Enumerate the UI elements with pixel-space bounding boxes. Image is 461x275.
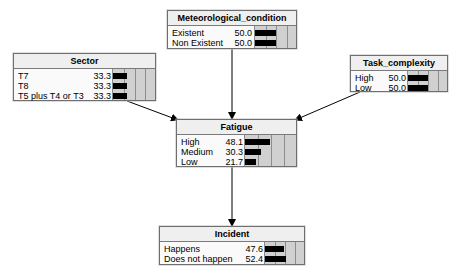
state-label: Medium — [181, 147, 213, 157]
state-label: Low — [181, 157, 198, 167]
edge-arrow-task_complexity-to-fatigue — [295, 92, 360, 120]
state-label: Low — [355, 83, 372, 93]
state-probability: 47.6 — [245, 244, 263, 254]
state-row-t8: T8 33.3 — [14, 81, 155, 91]
node-incident[interactable]: Incident Happens 47.6 Does not happen 52… — [159, 226, 305, 265]
state-label: T5 plus T4 or T3 — [18, 91, 84, 101]
state-label: Existent — [172, 28, 204, 38]
node-body: High 48.1 Medium 30.3 Low 21.7 — [177, 135, 296, 166]
node-title: Sector — [14, 54, 155, 69]
state-row-medium: Medium 30.3 — [177, 147, 296, 157]
state-probability: 30.3 — [225, 147, 243, 157]
state-row-happens: Happens 47.6 — [160, 244, 304, 254]
node-fatigue[interactable]: Fatigue High 48.1 Medium 30.3 Low 21.7 — [176, 119, 297, 167]
state-label: High — [355, 73, 374, 83]
node-body: Existent 50.0 Non Existent 50.0 — [168, 26, 296, 48]
node-title: Incident — [160, 227, 304, 242]
state-probability: 33.3 — [93, 81, 111, 91]
state-probability: 52.4 — [245, 254, 263, 264]
node-task-complexity[interactable]: Task_complexity High 50.0 Low 50.0 — [350, 55, 448, 92]
node-title: Task_complexity — [351, 56, 447, 71]
state-row-non-existent: Non Existent 50.0 — [168, 38, 296, 48]
state-label: Happens — [164, 244, 200, 254]
state-row-existent: Existent 50.0 — [168, 28, 296, 38]
state-probability: 50.0 — [234, 38, 252, 48]
state-row-t7: T7 33.3 — [14, 71, 155, 81]
state-label: High — [181, 137, 200, 147]
node-body: T7 33.3 T8 33.3 T5 plus T4 or T3 33.3 — [14, 69, 155, 100]
node-title: Meteorological_condition — [168, 11, 296, 26]
node-sector[interactable]: Sector T7 33.3 T8 33.3 T5 plus T4 or T3 … — [13, 53, 156, 101]
node-title: Fatigue — [177, 120, 296, 135]
state-row-low: Low 21.7 — [177, 157, 296, 167]
node-body: High 50.0 Low 50.0 — [351, 71, 447, 91]
state-probability: 21.7 — [225, 157, 243, 167]
state-label: T7 — [18, 71, 29, 81]
state-probability: 50.0 — [234, 28, 252, 38]
state-label: Non Existent — [172, 38, 223, 48]
state-row-low: Low 50.0 — [351, 83, 447, 93]
state-probability: 33.3 — [93, 91, 111, 101]
state-row-high: High 48.1 — [177, 137, 296, 147]
node-body: Happens 47.6 Does not happen 52.4 — [160, 242, 304, 264]
state-probability: 48.1 — [225, 137, 243, 147]
state-probability: 33.3 — [93, 71, 111, 81]
state-row-high: High 50.0 — [351, 73, 447, 83]
state-probability: 50.0 — [388, 83, 406, 93]
state-row-t5-plus-t4-or-t3: T5 plus T4 or T3 33.3 — [14, 91, 155, 101]
state-label: T8 — [18, 81, 29, 91]
state-label: Does not happen — [164, 254, 233, 264]
node-meteorological-condition[interactable]: Meteorological_condition Existent 50.0 N… — [167, 10, 297, 49]
state-row-does-not-happen: Does not happen 52.4 — [160, 254, 304, 264]
state-probability: 50.0 — [388, 73, 406, 83]
edge-arrow-sector-to-fatigue — [127, 101, 178, 120]
